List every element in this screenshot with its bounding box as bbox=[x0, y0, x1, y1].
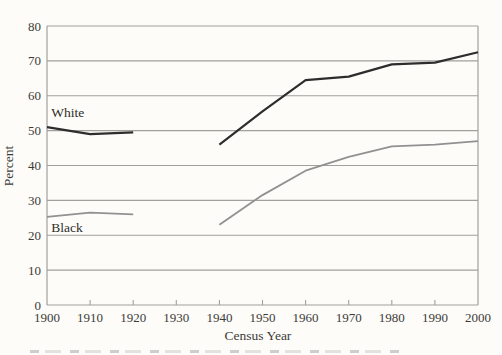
x-tick-label: 1930 bbox=[163, 310, 189, 325]
y-tick-label: 50 bbox=[28, 123, 41, 138]
series-label-white: White bbox=[51, 105, 84, 120]
x-tick-label: 1940 bbox=[206, 310, 232, 325]
cropped-caption-artifact bbox=[30, 350, 402, 353]
x-tick-label: 1970 bbox=[336, 310, 362, 325]
y-tick-label: 40 bbox=[28, 158, 41, 173]
y-tick-label: 30 bbox=[28, 193, 41, 208]
series-label-black: Black bbox=[51, 220, 83, 235]
x-tick-label: 1910 bbox=[77, 310, 103, 325]
x-tick-label: 1960 bbox=[293, 310, 319, 325]
x-tick-label: 1900 bbox=[34, 310, 60, 325]
x-tick-label: 1920 bbox=[120, 310, 146, 325]
x-tick-label: 1950 bbox=[250, 310, 276, 325]
grid-layer bbox=[47, 26, 478, 305]
chart-canvas: 0102030405060708019001910192019301940195… bbox=[0, 0, 502, 352]
y-tick-label: 60 bbox=[28, 88, 41, 103]
line-chart: 0102030405060708019001910192019301940195… bbox=[0, 0, 502, 352]
y-tick-label: 10 bbox=[28, 263, 41, 278]
series-layer bbox=[47, 52, 478, 225]
x-tick-label: 2000 bbox=[465, 310, 491, 325]
y-axis-title: Percent bbox=[1, 146, 16, 187]
tick-label-layer: 0102030405060708019001910192019301940195… bbox=[28, 19, 491, 326]
figure-page: 0102030405060708019001910192019301940195… bbox=[0, 0, 502, 355]
y-tick-label: 20 bbox=[28, 228, 41, 243]
x-tick-label: 1990 bbox=[422, 310, 448, 325]
y-tick-label: 80 bbox=[28, 19, 41, 34]
series-line-black bbox=[47, 213, 133, 217]
y-tick-label: 70 bbox=[28, 53, 41, 68]
x-tick-label: 1980 bbox=[379, 310, 405, 325]
x-axis-title: Census Year bbox=[225, 328, 292, 343]
series-line-black bbox=[219, 141, 478, 225]
